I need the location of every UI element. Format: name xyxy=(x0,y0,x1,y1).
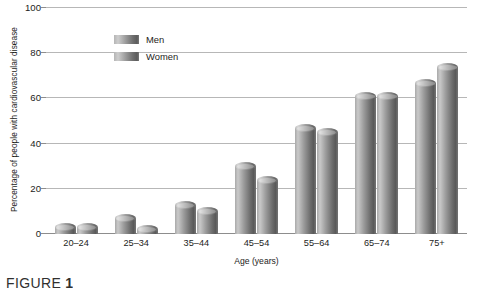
y-axis-tick-40: 40 xyxy=(30,137,41,148)
bar-cap xyxy=(137,225,158,233)
bar-group-65-74 xyxy=(347,8,407,234)
bar-cap xyxy=(317,128,338,136)
bar-men-20-24 xyxy=(55,227,76,234)
bar-women-35-44 xyxy=(197,211,218,234)
bar-cap xyxy=(197,207,218,215)
legend-label-women: Women xyxy=(146,51,178,62)
y-axis-tick-20: 20 xyxy=(30,182,41,193)
x-axis-tick-20-24: 20–24 xyxy=(46,238,106,248)
bar-cap xyxy=(175,201,196,209)
y-axis-title: Percentage of people with cardiovascular… xyxy=(10,0,19,240)
plot-area: 020406080100 Men Women xyxy=(46,8,467,234)
bar-group-20-24 xyxy=(46,8,106,234)
bar-cap xyxy=(295,124,316,132)
bar-cap xyxy=(257,176,278,184)
bar-men-55-64 xyxy=(295,128,316,234)
bar-cap xyxy=(115,214,136,222)
bar-women-65-74 xyxy=(377,96,398,234)
bar-women-75+ xyxy=(437,67,458,234)
x-axis-tick-45-54: 45–54 xyxy=(226,238,286,248)
legend-item-women: Women xyxy=(114,49,206,63)
legend-item-men: Men xyxy=(114,32,206,46)
x-axis-tick-65-74: 65–74 xyxy=(347,238,407,248)
x-axis-title: Age (years) xyxy=(46,256,467,266)
bar-women-25-34 xyxy=(137,229,158,234)
bar-cap xyxy=(77,223,98,231)
bar-men-45-54 xyxy=(235,166,256,234)
figure-caption: FIGURE1 xyxy=(6,275,73,290)
bar-group-75+ xyxy=(407,8,467,234)
bar-series-layer xyxy=(46,8,467,234)
x-axis-tick-55-64: 55–64 xyxy=(287,238,347,248)
caption-prefix: FIGURE xyxy=(6,275,61,290)
bar-cap xyxy=(377,92,398,100)
bar-women-45-54 xyxy=(257,180,278,234)
bar-cap xyxy=(355,92,376,100)
bar-women-55-64 xyxy=(317,132,338,234)
bar-men-65-74 xyxy=(355,96,376,234)
chart-legend: Men Women xyxy=(114,32,206,66)
bar-cap xyxy=(235,162,256,170)
x-axis-tick-labels: 20–2425–3435–4445–5455–6465–7475+ xyxy=(46,238,467,248)
bar-cap xyxy=(415,79,436,87)
bar-group-45-54 xyxy=(226,8,286,234)
bar-men-25-34 xyxy=(115,218,136,234)
caption-number: 1 xyxy=(65,275,73,290)
bar-cap xyxy=(437,63,458,71)
bar-men-75+ xyxy=(415,83,436,234)
x-axis-tick-25-34: 25–34 xyxy=(106,238,166,248)
legend-swatch-women xyxy=(114,52,139,61)
figure-container: Percentage of people with cardiovascular… xyxy=(0,0,477,290)
legend-label-men: Men xyxy=(146,34,164,45)
x-axis-tick-35-44: 35–44 xyxy=(166,238,226,248)
bar-women-20-24 xyxy=(77,227,98,234)
x-axis-tick-75+: 75+ xyxy=(407,238,467,248)
legend-swatch-men xyxy=(114,35,139,44)
y-axis-tick-80: 80 xyxy=(30,47,41,58)
bar-cap xyxy=(55,223,76,231)
bar-group-55-64 xyxy=(287,8,347,234)
y-axis-tick-60: 60 xyxy=(30,92,41,103)
bar-men-35-44 xyxy=(175,205,196,234)
y-axis-tick-100: 100 xyxy=(25,2,41,13)
